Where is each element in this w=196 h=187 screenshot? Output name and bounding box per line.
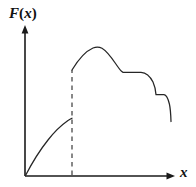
curve-upper-branch xyxy=(72,47,171,121)
x-axis-arrow-icon xyxy=(167,173,176,180)
y-axis-arrow-icon xyxy=(22,25,29,34)
x-axis-label: x xyxy=(180,165,188,180)
figure-container: F(x) x xyxy=(0,0,196,187)
y-axis-label-function-letter: F xyxy=(9,5,19,21)
y-axis-label-close-paren: ) xyxy=(32,5,37,21)
y-axis-label-variable: x xyxy=(24,5,32,21)
y-axis-label: F(x) xyxy=(9,6,37,21)
figure-canvas xyxy=(0,0,196,187)
curve-lower-branch xyxy=(26,118,73,175)
